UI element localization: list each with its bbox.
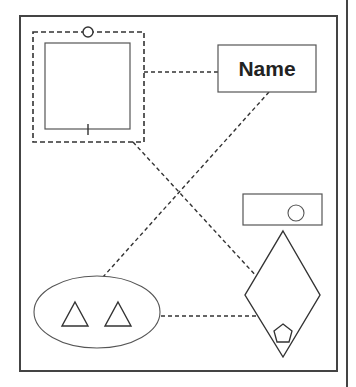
name-box-label: Name xyxy=(218,45,316,92)
ellipse xyxy=(34,276,160,348)
small-rect xyxy=(243,194,322,225)
connector-container-to-diamond xyxy=(133,142,258,278)
inner-square xyxy=(45,43,130,129)
diamond xyxy=(245,231,320,357)
port-circle-icon xyxy=(83,27,93,37)
